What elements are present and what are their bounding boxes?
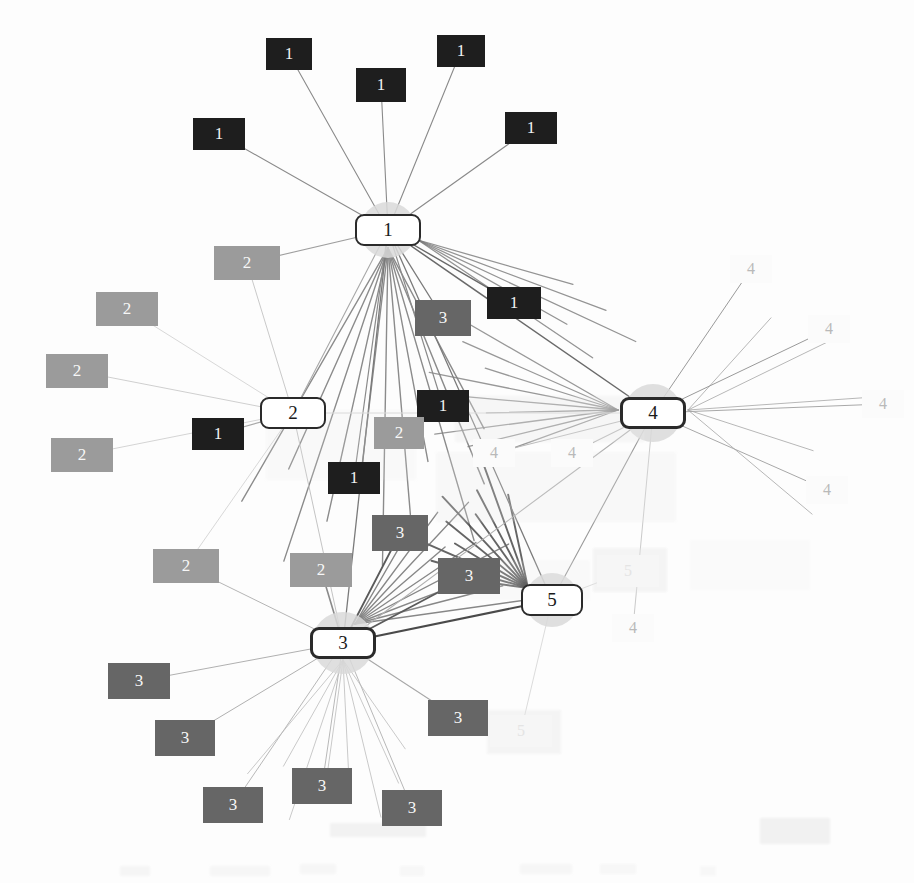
edge-bundle-line (688, 410, 813, 451)
satellite-label-class1[interactable]: 1 (192, 418, 244, 450)
edge-bundle-line (355, 599, 533, 624)
satellite-label-class2[interactable]: 2 (96, 292, 158, 326)
satellite-label-class2[interactable]: 2 (290, 553, 352, 587)
satellite-label-class2[interactable]: 2 (374, 417, 424, 449)
scan-artifact-14 (600, 864, 636, 874)
hub-node-1[interactable]: 1 (355, 214, 421, 246)
scan-artifact-13 (520, 864, 572, 874)
edge-bundle-line (248, 660, 343, 774)
satellite-label-class2[interactable]: 2 (153, 549, 219, 583)
satellite-label-class1[interactable]: 1 (417, 390, 469, 422)
edge-bundle-line (283, 660, 343, 766)
edge-bundle-line (343, 660, 405, 749)
satellite-label-class3[interactable]: 3 (203, 787, 263, 823)
network-graph-canvas: 1111111112222222333333333444444455 12345 (0, 0, 914, 883)
satellite-label-class1[interactable]: 1 (193, 118, 245, 150)
scan-artifact-11 (300, 864, 336, 874)
satellite-label-class5[interactable]: 5 (490, 715, 552, 747)
scan-artifact-15 (700, 866, 716, 876)
scan-artifact-6 (690, 540, 810, 590)
satellite-label-class4[interactable]: 4 (551, 439, 593, 467)
satellite-label-class4[interactable]: 4 (808, 315, 850, 343)
satellite-label-class3[interactable]: 3 (372, 515, 428, 551)
edge-line (293, 230, 388, 413)
edge-bundle-line (688, 342, 827, 410)
satellite-label-class1[interactable]: 1 (266, 38, 312, 70)
satellite-label-class5[interactable]: 5 (597, 555, 659, 587)
edge-bundle-line (343, 660, 399, 783)
satellite-label-class4[interactable]: 4 (730, 255, 772, 283)
edge-bundle-line (418, 240, 573, 284)
satellite-label-class4[interactable]: 4 (806, 476, 848, 504)
satellite-label-class2[interactable]: 2 (46, 354, 108, 388)
scan-artifact-12 (400, 866, 424, 876)
satellite-label-class3[interactable]: 3 (155, 720, 215, 756)
satellite-label-class3[interactable]: 3 (428, 700, 488, 736)
edge-bundle-line (688, 318, 771, 410)
satellite-label-class4[interactable]: 4 (473, 439, 515, 467)
satellite-label-class1[interactable]: 1 (505, 112, 557, 144)
scan-artifact-8 (760, 818, 830, 844)
satellite-label-class3[interactable]: 3 (108, 663, 170, 699)
satellite-label-class1[interactable]: 1 (328, 462, 380, 494)
edge-line (247, 263, 293, 413)
edge-bundle-line (343, 660, 349, 775)
scan-artifact-9 (120, 866, 150, 876)
hub-node-2[interactable]: 2 (260, 397, 326, 429)
satellite-label-class2[interactable]: 2 (51, 438, 113, 472)
satellite-label-class3[interactable]: 3 (292, 768, 352, 804)
satellite-label-class2[interactable]: 2 (214, 246, 280, 280)
satellite-label-class1[interactable]: 1 (437, 35, 485, 67)
hub-node-4[interactable]: 4 (620, 397, 686, 429)
satellite-label-class3[interactable]: 3 (382, 790, 442, 826)
satellite-label-class1[interactable]: 1 (487, 287, 541, 319)
satellite-label-class4[interactable]: 4 (862, 390, 904, 418)
edge-line (653, 404, 883, 413)
hub-node-5[interactable]: 5 (521, 584, 583, 616)
hub-node-3[interactable]: 3 (310, 627, 376, 659)
edge-bundle-line (688, 410, 812, 514)
satellite-label-class3[interactable]: 3 (415, 300, 471, 336)
satellite-label-class1[interactable]: 1 (356, 68, 406, 102)
satellite-label-class4[interactable]: 4 (612, 614, 654, 642)
scan-artifact-0 (455, 396, 645, 442)
scan-artifact-10 (210, 866, 270, 876)
satellite-label-class3[interactable]: 3 (438, 558, 500, 594)
